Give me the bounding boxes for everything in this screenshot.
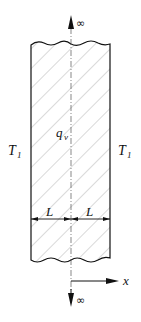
right-temperature-subscript: 1 — [127, 150, 132, 160]
heat-generation-subscript: v — [64, 132, 68, 142]
plane-wall-diagram: ∞ q v T 1 T 1 L L x ∞ — [0, 0, 141, 322]
bottom-infinity-arrow-icon — [68, 289, 74, 307]
left-temperature-label: T — [8, 143, 17, 158]
bottom-infinity-label: ∞ — [76, 294, 85, 307]
right-temperature-label: T — [118, 143, 127, 158]
x-axis-arrow-icon — [71, 278, 119, 284]
top-infinity-label: ∞ — [76, 17, 85, 30]
left-half-width-label: L — [45, 204, 53, 219]
x-axis-label: x — [122, 273, 129, 288]
top-infinity-arrow-icon — [68, 15, 74, 29]
right-half-width-label: L — [85, 204, 93, 219]
left-temperature-subscript: 1 — [17, 150, 22, 160]
heat-generation-label: q — [56, 125, 63, 140]
